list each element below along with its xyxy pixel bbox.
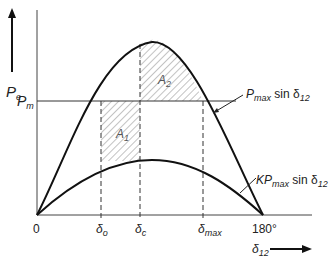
area-a1-label: A1 <box>116 128 129 143</box>
x-tick-delta-o: δo <box>96 223 108 238</box>
x-axis-label: δ12 <box>252 243 269 258</box>
curve-kpmax-label: KPmax sin δ12 <box>256 174 328 189</box>
curve-kpmax <box>37 160 263 215</box>
curve-pmax-label: Pmax sin δ12 <box>246 88 310 103</box>
area-a2-label: A2 <box>158 74 171 89</box>
x-tick-0: 0 <box>33 223 40 235</box>
x-tick-delta-max: δmax <box>198 223 222 238</box>
power-angle-diagram <box>0 0 330 267</box>
x-tick-delta-c: δc <box>135 223 146 238</box>
pm-label: Pm <box>17 94 34 111</box>
leader-kpmax <box>240 178 256 193</box>
y-axis-arrowhead-icon <box>8 8 16 18</box>
x-tick-180: 180° <box>252 223 277 235</box>
x-axis-arrowhead-icon <box>302 245 312 253</box>
